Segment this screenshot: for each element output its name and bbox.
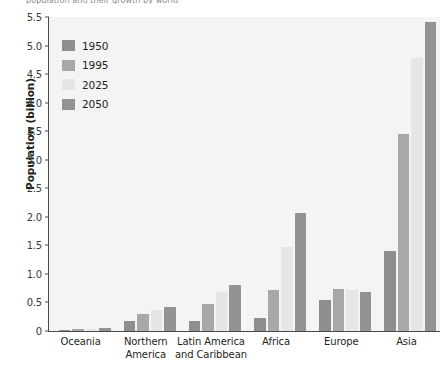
legend-swatch [62, 60, 75, 71]
bar-group [124, 17, 176, 331]
legend-item: 2025 [62, 75, 124, 95]
x-tick-label-line: Asia [360, 336, 443, 349]
legend-item: 1995 [62, 56, 124, 76]
legend-label: 2050 [82, 98, 108, 110]
bar [216, 292, 228, 331]
bar [151, 310, 163, 331]
legend-swatch [62, 99, 75, 110]
bar [254, 318, 266, 331]
x-tick-label-line: and Caribbean [164, 349, 257, 362]
bar [86, 329, 98, 331]
bar-group [384, 17, 436, 331]
bar [164, 307, 176, 331]
x-tick-label: Asia [360, 336, 443, 349]
bar [99, 328, 111, 331]
legend-label: 2025 [82, 79, 108, 91]
bar-group [189, 17, 241, 331]
cropped-caption-text: population and their growth by world [26, 0, 326, 4]
bar [189, 321, 201, 331]
legend-item: 2050 [62, 95, 124, 115]
bar [202, 304, 214, 331]
legend-swatch [62, 40, 75, 51]
bar [229, 285, 241, 331]
figure: population and their growth by world Pop… [0, 0, 443, 371]
bar [360, 292, 372, 331]
bar [137, 314, 149, 331]
bar [281, 247, 293, 331]
bar [346, 290, 358, 331]
bar [72, 329, 84, 331]
bar [425, 22, 437, 331]
legend-item: 1950 [62, 36, 124, 56]
legend-label: 1950 [82, 40, 108, 52]
legend: 1950199520252050 [62, 36, 124, 114]
bar [384, 251, 396, 331]
legend-label: 1995 [82, 59, 108, 71]
legend-swatch [62, 79, 75, 90]
bar [59, 330, 71, 331]
bar [124, 321, 136, 331]
bar [333, 289, 345, 331]
bar-group [319, 17, 371, 331]
bar-group [254, 17, 306, 331]
bar [295, 213, 307, 331]
bar [268, 290, 280, 331]
bar [319, 300, 331, 331]
bar [411, 58, 423, 331]
bar [398, 134, 410, 331]
